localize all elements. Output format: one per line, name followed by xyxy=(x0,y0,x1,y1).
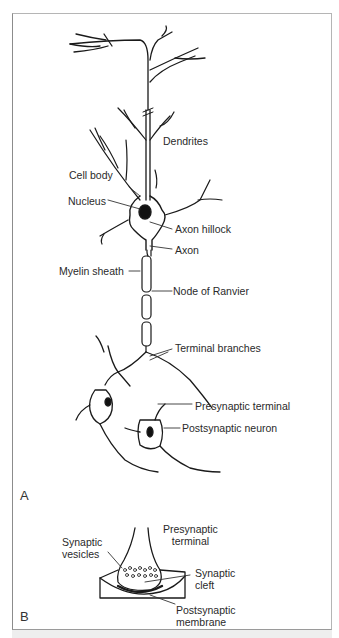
label-cleft-line1: Synaptic xyxy=(195,567,235,579)
label-b-presynaptic-terminal: Presynaptic terminal xyxy=(163,523,218,547)
axon xyxy=(142,250,151,352)
label-cleft-line2: cleft xyxy=(195,579,235,591)
label-node-of-ranvier: Node of Ranvier xyxy=(173,285,249,297)
label-nucleus: Nucleus xyxy=(68,195,106,207)
label-terminal-branches: Terminal branches xyxy=(175,342,261,354)
label-dendrites: Dendrites xyxy=(163,135,208,147)
label-b-presynaptic-line2: terminal xyxy=(163,535,218,547)
cell-body xyxy=(130,196,166,250)
label-postsynaptic-membrane: Postsynaptic membrane xyxy=(176,604,236,628)
label-postsynaptic-neuron: Postsynaptic neuron xyxy=(182,422,277,434)
label-b-presynaptic-line1: Presynaptic xyxy=(163,523,218,535)
synaptic-vesicles xyxy=(124,567,158,578)
panel-label-a: A xyxy=(20,488,29,503)
leader-lines-b xyxy=(108,552,190,604)
label-synaptic-vesicles: Synaptic vesicles xyxy=(62,536,102,560)
label-cell-body: Cell body xyxy=(69,169,113,181)
label-myelin-sheath: Myelin sheath xyxy=(59,265,124,277)
panel-label-b: B xyxy=(20,609,29,624)
label-axon-hillock: Axon hillock xyxy=(175,223,231,235)
label-vesicles-line2: vesicles xyxy=(62,548,102,560)
label-membrane-line1: Postsynaptic xyxy=(176,604,236,616)
label-presynaptic-terminal: Presynaptic terminal xyxy=(195,400,290,412)
label-axon: Axon xyxy=(175,244,199,256)
label-membrane-line2: membrane xyxy=(176,616,236,628)
label-synaptic-cleft: Synaptic cleft xyxy=(195,567,235,591)
label-vesicles-line1: Synaptic xyxy=(62,536,102,548)
